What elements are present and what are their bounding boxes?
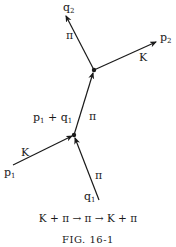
vertex-lower [72, 133, 76, 137]
feynman-diagram [0, 0, 176, 247]
figure-caption: FIG. 16-1 [0, 234, 176, 245]
label-internal-momentum: p1 + q1 [33, 112, 72, 127]
label-p2: p2 [160, 32, 172, 47]
label-q1: q1 [84, 191, 96, 206]
vertex-upper [92, 68, 96, 72]
line-internal-pion [74, 73, 93, 135]
label-pion-internal: π [89, 111, 96, 122]
label-pion-q2: π [66, 30, 73, 41]
reaction-equation: K + π → π → K + π [0, 212, 176, 224]
label-q2: q2 [63, 2, 75, 17]
label-kaon-p1: K [21, 147, 29, 158]
line-q2-pion [66, 16, 94, 70]
label-pion-q1: π [95, 170, 102, 181]
label-kaon-p2: K [139, 52, 147, 63]
label-p1: p1 [4, 167, 16, 182]
